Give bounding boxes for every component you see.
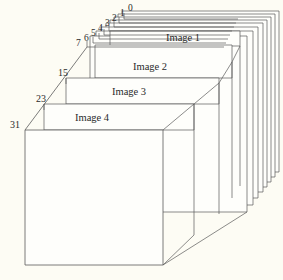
plane-image-4-top: [44, 104, 194, 130]
plane-image-2-top: [95, 45, 232, 78]
plane-image-1-top: [110, 31, 240, 46]
front-face: [25, 130, 163, 265]
diagram-canvas: 0 1 2 3 4 5 6 7 15 23 31 Image 1 Image 2…: [0, 0, 283, 280]
plane-image-3-top: [66, 78, 219, 104]
stacked-planes-svg: [0, 0, 283, 280]
bottom-diagonal: [163, 212, 247, 265]
